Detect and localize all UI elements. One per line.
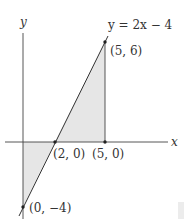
line-equation-label: y = 2x − 4 — [107, 18, 173, 32]
point-label-5-6: (5, 6) — [110, 44, 142, 58]
y-axis-label: y — [19, 15, 27, 29]
point-label-0-m4: (0, −4) — [29, 201, 71, 215]
point-0-m4 — [21, 205, 24, 208]
point-5-6 — [103, 40, 106, 43]
point-2-0 — [53, 140, 56, 143]
x-axis-label: x — [171, 135, 178, 149]
scrollbar-thumb[interactable] — [178, 202, 184, 219]
point-5-0 — [103, 140, 106, 143]
point-label-2-0: (2, 0) — [53, 147, 85, 161]
point-label-5-0: (5, 0) — [92, 147, 124, 161]
line-region-diagram: y x y = 2x − 4 (5, 6) (2, 0) (5, 0) (0, … — [0, 0, 184, 219]
